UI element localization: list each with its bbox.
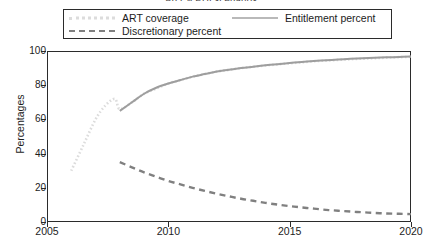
- x-axis-tick-label: 2005: [27, 226, 67, 237]
- legend-label-entitlement-percent: Entitlement percent: [285, 12, 375, 24]
- plot-lines: [47, 51, 411, 222]
- y-axis-tick-mark: [41, 85, 46, 86]
- y-axis-tick-mark: [41, 51, 46, 52]
- x-axis-tick-mark: [168, 222, 169, 227]
- dashed-line-swatch-icon: [69, 26, 115, 36]
- legend-item-discretionary-percent: Discretionary percent: [69, 25, 221, 37]
- solid-line-swatch-icon: [232, 13, 278, 23]
- y-axis-tick-mark: [41, 188, 46, 189]
- series-line-entitlement-percent: [120, 56, 411, 110]
- legend-item-art-coverage: ART coverage: [69, 12, 189, 24]
- y-axis-tick-mark: [41, 222, 46, 223]
- y-axis-tick-mark: [41, 154, 46, 155]
- legend-item-entitlement-percent: Entitlement percent: [232, 12, 375, 24]
- x-axis-tick-label: 2020: [391, 226, 427, 237]
- y-axis-tick-mark: [41, 119, 46, 120]
- x-axis-tick-mark: [411, 222, 412, 227]
- y-axis-title: Percentages: [14, 54, 26, 194]
- x-axis-tick-mark: [47, 222, 48, 227]
- chart-title: ART и PHI scenarios: [0, 0, 422, 1]
- series-line-discretionary-percent: [120, 162, 411, 214]
- legend-label-discretionary-percent: Discretionary percent: [122, 25, 221, 37]
- chart-legend: ART coverage Entitlement percent Discret…: [63, 9, 392, 39]
- x-axis-tick-label: 2015: [270, 226, 310, 237]
- dotted-line-swatch-icon: [69, 13, 115, 23]
- series-line-art-coverage: [71, 57, 411, 171]
- x-axis-tick-mark: [290, 222, 291, 227]
- x-axis-tick-label: 2010: [148, 226, 188, 237]
- legend-label-art-coverage: ART coverage: [122, 12, 189, 24]
